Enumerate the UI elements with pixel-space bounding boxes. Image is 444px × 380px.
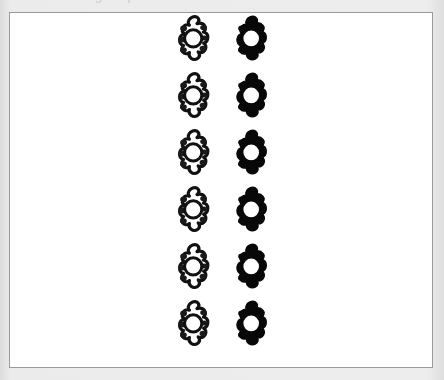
vertebra-solid-r6: [234, 300, 274, 350]
vertebra-outline-r3: [176, 129, 216, 179]
vertebra-outline-r2: [176, 72, 216, 122]
vertebra-solid-r3: [234, 129, 274, 179]
vertebra-outline-r1: [176, 15, 216, 65]
vertebra-outline-r4: [176, 186, 216, 236]
vertebra-solid-r2: [234, 72, 274, 122]
vertebra-solid-r1: [234, 15, 274, 65]
clipped-header-text: anatomical figure plate: [14, 0, 159, 3]
vertebra-solid-r4: [234, 186, 274, 236]
vertebra-grid: [10, 13, 432, 367]
vertebra-outline-r5: [176, 243, 216, 293]
vertebra-solid-r5: [234, 243, 274, 293]
clipped-header-text-row: anatomical figure plate: [0, 0, 444, 11]
vertebra-outline-r6: [176, 300, 216, 350]
figure-frame: [9, 12, 433, 368]
